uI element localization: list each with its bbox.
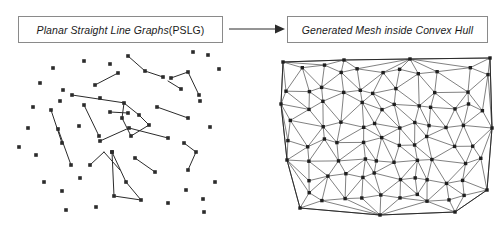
mesh-edge — [374, 162, 394, 173]
mesh-edge — [328, 176, 345, 199]
mesh-edge — [287, 160, 309, 161]
mesh-edge — [381, 195, 400, 198]
mesh-edge — [400, 123, 415, 129]
mesh-edge — [419, 106, 430, 107]
mesh-vertex — [381, 71, 384, 74]
mesh-edge — [362, 177, 363, 198]
mesh-vertex — [307, 160, 310, 163]
mesh-vertex — [306, 145, 309, 148]
mesh-edge — [427, 183, 447, 201]
mesh-vertex — [361, 176, 364, 179]
mesh-vertex — [490, 126, 493, 129]
mesh-edge — [437, 68, 470, 72]
mesh-edge — [362, 102, 382, 109]
mesh-vertex — [360, 196, 363, 199]
convex-hull-outline — [281, 58, 492, 215]
mesh-edge — [309, 193, 322, 201]
mesh-edge — [373, 89, 396, 94]
mesh-vertex — [361, 101, 364, 104]
mesh-edge — [344, 92, 363, 102]
mesh-vertex — [481, 109, 484, 112]
mesh-edge — [481, 158, 487, 190]
mesh-edge — [394, 162, 401, 179]
mesh-edge — [283, 62, 286, 91]
mesh-edge — [415, 137, 427, 146]
mesh-vertex — [429, 106, 432, 109]
mesh-vertex — [335, 141, 338, 144]
mesh-edge — [463, 180, 465, 195]
mesh-edge — [357, 69, 360, 91]
mesh-vertex — [414, 176, 417, 179]
mesh-vertices — [279, 56, 493, 216]
mesh-edge — [473, 146, 481, 158]
mesh-edge — [345, 177, 363, 198]
mesh-edge — [394, 89, 396, 105]
caption-mesh-italic: Generated Mesh inside Convex Hull — [302, 24, 473, 36]
mesh-edge — [400, 180, 401, 198]
mesh-vertex — [375, 159, 378, 162]
mesh-vertex — [301, 66, 304, 69]
mesh-vertex — [416, 193, 419, 196]
mesh-edge — [286, 68, 302, 92]
mesh-edge — [322, 65, 325, 87]
mesh-edge — [399, 145, 417, 160]
mesh-edge — [322, 87, 323, 101]
mesh-edge — [432, 160, 447, 184]
mesh-edge — [469, 104, 483, 111]
mesh-vertex — [425, 200, 428, 203]
mesh-edge — [345, 198, 362, 199]
mesh-vertex — [392, 161, 395, 164]
mesh-edge — [396, 74, 418, 89]
mesh-edge — [288, 120, 290, 140]
mesh-edge — [322, 199, 345, 201]
mesh-edge — [344, 60, 357, 69]
mesh-vertex — [373, 122, 376, 125]
mesh-edge — [429, 126, 446, 128]
mesh-edge — [466, 146, 473, 163]
mesh-edge — [341, 102, 362, 122]
mesh-edge — [394, 160, 417, 162]
mesh-vertex — [373, 171, 376, 174]
mesh-vertex — [371, 92, 374, 95]
mesh-edge — [322, 87, 344, 92]
mesh-edge — [468, 75, 488, 93]
mesh-vertex — [399, 178, 402, 181]
mesh-vertex — [416, 159, 419, 162]
mesh-vertex — [344, 172, 347, 175]
mesh-edge — [427, 128, 446, 137]
mesh-edge — [362, 102, 374, 123]
mesh-edge — [362, 102, 364, 127]
mesh-edge — [309, 101, 323, 109]
mesh-vertex — [393, 103, 396, 106]
mesh-vertex — [343, 197, 346, 200]
mesh-edge — [394, 104, 400, 128]
mesh-vertex — [355, 67, 358, 70]
mesh-edge — [341, 72, 360, 90]
mesh-vertex — [479, 157, 482, 160]
caption-box-mesh: Generated Mesh inside Convex Hull — [287, 16, 488, 43]
mesh-edge — [427, 200, 449, 201]
mesh-vertex — [342, 58, 345, 61]
mesh-edge — [417, 160, 427, 180]
mesh-vertex — [323, 63, 326, 66]
mesh-vertex — [486, 73, 489, 76]
mesh-edge — [360, 90, 372, 93]
mesh-edge — [381, 180, 401, 195]
caption-pslg-roman: (PSLG) — [169, 24, 205, 36]
mesh-vertex — [279, 102, 282, 105]
mesh-edge — [287, 147, 308, 160]
mesh-vertex — [284, 90, 287, 93]
mesh-edge — [365, 159, 374, 173]
mesh-edge — [309, 161, 328, 176]
mesh-vertex — [337, 159, 340, 162]
mesh-vertex — [378, 213, 381, 216]
mesh-vertex — [289, 119, 292, 122]
mesh-vertex — [464, 162, 467, 165]
mesh-edge — [400, 194, 417, 198]
mesh-vertex — [321, 100, 324, 103]
mesh-vertex — [362, 141, 365, 144]
mesh-edge — [362, 195, 381, 198]
mesh-vertex — [342, 91, 345, 94]
mesh-vertex — [322, 125, 325, 128]
mesh-vertex — [398, 196, 401, 199]
